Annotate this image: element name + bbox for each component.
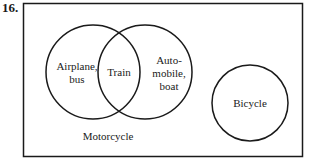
right-set-label-line2: mobile,: [147, 67, 191, 80]
left-set-label: Airplane, bus: [52, 60, 102, 86]
bicycle-label: Bicycle: [225, 97, 275, 110]
left-set-label-line1: Airplane,: [52, 60, 102, 73]
left-set-label-line2: bus: [52, 73, 102, 86]
right-set-label-line1: Auto-: [147, 54, 191, 67]
right-set-label-line3: boat: [147, 80, 191, 93]
intersection-label: Train: [101, 66, 137, 79]
universe-label: Motorcycle: [78, 130, 138, 143]
right-set-label: Auto- mobile, boat: [147, 54, 191, 93]
